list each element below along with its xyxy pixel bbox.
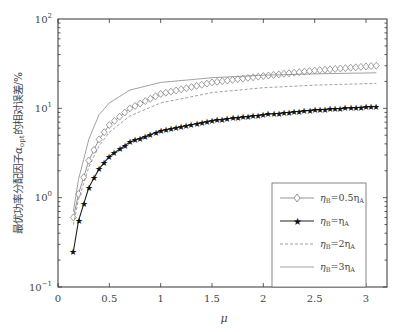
y-tick-label: 102 xyxy=(35,12,52,25)
diamond-marker-icon xyxy=(183,85,189,92)
diamond-marker-icon xyxy=(291,69,297,76)
x-tick-label: 0.5 xyxy=(101,293,117,304)
diamond-marker-icon xyxy=(373,62,379,69)
diamond-marker-icon xyxy=(219,78,225,85)
y-axis-label: 最优功率分配因子αopt的相对误差/% xyxy=(12,72,26,234)
diamond-marker-icon xyxy=(163,89,169,96)
diamond-marker-icon xyxy=(86,157,92,164)
diamond-marker-icon xyxy=(255,73,261,80)
diamond-marker-icon xyxy=(260,73,266,80)
diamond-marker-icon xyxy=(230,76,236,83)
diamond-marker-icon xyxy=(173,87,179,94)
x-tick-label: 0 xyxy=(55,293,61,304)
star-marker-icon: ★ xyxy=(372,102,380,112)
x-tick-label: 1.5 xyxy=(204,293,220,304)
diamond-marker-icon xyxy=(168,88,174,95)
y-tick-label: 10−1 xyxy=(29,280,52,293)
diamond-marker-icon xyxy=(209,79,215,86)
star-marker-icon: ★ xyxy=(90,173,98,183)
diamond-marker-icon xyxy=(281,70,287,77)
star-marker-icon: ★ xyxy=(293,216,302,227)
diamond-marker-icon xyxy=(214,78,220,85)
y-tick-label: 101 xyxy=(35,101,52,114)
diamond-marker-icon xyxy=(204,80,210,87)
x-tick-label: 1 xyxy=(158,293,164,304)
diamond-marker-icon xyxy=(178,86,184,93)
x-axis-label: μ xyxy=(220,312,227,325)
diamond-marker-icon xyxy=(250,74,256,81)
x-tick-label: 2 xyxy=(260,293,266,304)
y-tick-labels: 102 101 100 10−1 xyxy=(29,12,52,293)
legend: ηB=0.5ηA ★ ηB=ηA ηB=2ηA ηB=3ηA xyxy=(272,183,366,287)
diamond-marker-icon xyxy=(111,117,117,124)
star-marker-icon: ★ xyxy=(69,247,77,257)
diamond-marker-icon xyxy=(224,77,230,84)
diamond-marker-icon xyxy=(188,84,194,91)
diamond-marker-icon xyxy=(81,174,87,181)
diamond-marker-icon xyxy=(307,68,313,75)
x-tick-label: 3 xyxy=(363,293,369,304)
diamond-marker-icon xyxy=(286,70,292,77)
star-marker-icon: ★ xyxy=(85,183,93,193)
diamond-marker-icon xyxy=(199,81,205,88)
diamond-marker-icon xyxy=(122,109,128,116)
x-tick-labels: 0 0.5 1 1.5 2 2.5 3 xyxy=(55,293,369,304)
star-marker-icon: ★ xyxy=(75,216,83,226)
chart: ★★★★★★★★★★★★★★★★★★★★★★★★★★★★★★★★★★★★★★★★… xyxy=(0,0,402,332)
y-tick-label: 100 xyxy=(35,190,52,203)
diamond-marker-icon xyxy=(194,82,200,89)
star-marker-icon: ★ xyxy=(80,199,88,209)
x-tick-label: 2.5 xyxy=(307,293,323,304)
diamond-marker-icon xyxy=(117,113,123,120)
